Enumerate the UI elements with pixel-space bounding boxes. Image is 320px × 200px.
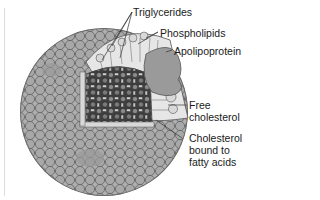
label-free-cholesterol-line1: Free <box>189 99 240 111</box>
lipid-core <box>80 67 154 127</box>
label-cholesterol-esters-line2: bound to <box>189 144 242 156</box>
label-cholesterol-esters-line3: fatty acids <box>189 156 242 168</box>
label-free-cholesterol: Free cholesterol <box>189 99 240 123</box>
label-free-cholesterol-line2: cholesterol <box>189 111 240 123</box>
label-apolipoprotein: Apolipoprotein <box>174 45 241 57</box>
label-phospholipids: Phospholipids <box>160 27 225 39</box>
label-triglycerides: Triglycerides <box>133 6 192 18</box>
label-cholesterol-esters: Cholesterol bound to fatty acids <box>189 132 242 168</box>
label-cholesterol-esters-line1: Cholesterol <box>189 132 242 144</box>
